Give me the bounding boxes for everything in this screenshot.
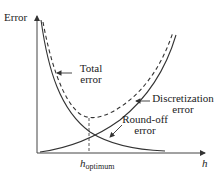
discretization-error-label: Discretization error xyxy=(150,93,216,115)
x-axis-label: h xyxy=(202,158,208,169)
round-off-error-pointer xyxy=(110,125,122,137)
total-error-label-line2: error xyxy=(74,74,108,85)
h-optimum-label: hoptimum xyxy=(80,158,114,172)
total-error-label: Total error xyxy=(74,63,108,85)
error-vs-step-size-diagram: Error h Total error Discretization error… xyxy=(0,0,218,178)
h-optimum-subscript: optimum xyxy=(86,162,115,171)
y-axis-label: Error xyxy=(4,12,27,23)
round-off-error-label-line2: error xyxy=(122,125,168,136)
plot-canvas xyxy=(0,0,218,178)
round-off-error-label: Round-off error xyxy=(122,114,168,136)
